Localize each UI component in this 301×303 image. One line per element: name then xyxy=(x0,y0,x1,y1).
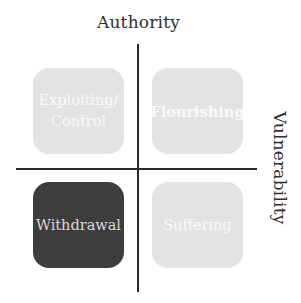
quadrant-withdrawal: Withdrawal xyxy=(33,182,124,268)
quadrant-label: Withdrawal xyxy=(36,215,121,236)
horizontal-axis-line xyxy=(16,168,257,170)
quadrant-label: Exploiting/ Control xyxy=(35,90,122,132)
quadrant-flourishing: Flourishing xyxy=(152,68,243,154)
quadrant-suffering: Suffering xyxy=(152,182,243,268)
authority-axis-label: Authority xyxy=(0,12,277,32)
quadrant-exploiting-control: Exploiting/ Control xyxy=(33,68,124,154)
quadrant-label: Flourishing xyxy=(150,101,244,122)
vulnerability-axis-label: Vulnerability xyxy=(270,111,290,224)
quadrant-label: Suffering xyxy=(163,215,231,236)
